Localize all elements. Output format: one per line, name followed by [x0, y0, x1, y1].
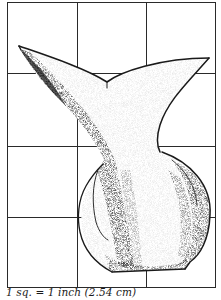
scale-caption: 1 sq. = 1 inch (2.54 cm)	[6, 286, 136, 298]
vase-shading	[0, 0, 221, 300]
grid-drawing	[0, 0, 221, 300]
